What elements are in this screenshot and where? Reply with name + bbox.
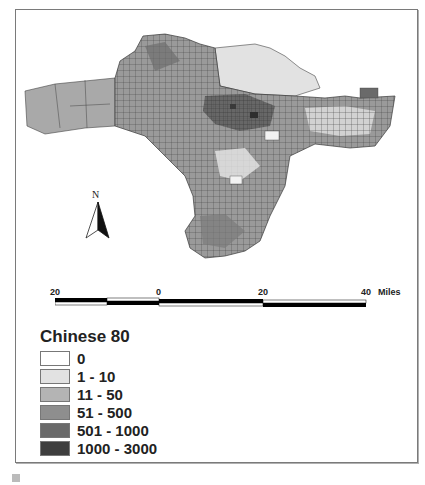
legend-label: 1 - 10 (77, 368, 115, 385)
legend-item: 1 - 10 (40, 367, 157, 385)
legend-swatch-5 (40, 441, 70, 456)
legend-label: 11 - 50 (77, 386, 123, 403)
legend: Chinese 80 0 1 - 10 11 - 50 51 - 500 501… (40, 327, 157, 457)
legend-swatch-0 (40, 351, 70, 366)
legend-label: 0 (77, 350, 85, 367)
north-arrow-icon (82, 190, 116, 245)
scale-tick-0: 0 (156, 287, 161, 297)
legend-swatch-4 (40, 423, 70, 438)
legend-swatch-1 (40, 369, 70, 384)
legend-title: Chinese 80 (40, 327, 157, 347)
legend-item: 0 (40, 349, 157, 367)
legend-label: 51 - 500 (77, 404, 132, 421)
legend-item: 501 - 1000 (40, 421, 157, 439)
legend-item: 51 - 500 (40, 403, 157, 421)
legend-swatch-2 (40, 387, 70, 402)
scale-bar-graphic (55, 297, 370, 309)
legend-label: 501 - 1000 (77, 422, 149, 439)
choropleth-map (15, 16, 415, 272)
legend-label: 1000 - 3000 (77, 440, 157, 457)
scale-bar: 20 0 20 40 Miles (55, 287, 395, 311)
legend-item: 1000 - 3000 (40, 439, 157, 457)
scale-tick-40: 40 (361, 287, 371, 297)
scale-tick-20-right: 20 (258, 287, 268, 297)
legend-item: 11 - 50 (40, 385, 157, 403)
scale-unit: Miles (378, 287, 401, 297)
legend-swatch-3 (40, 405, 70, 420)
scale-tick-20-left: 20 (50, 287, 60, 297)
page-mark (12, 474, 20, 482)
